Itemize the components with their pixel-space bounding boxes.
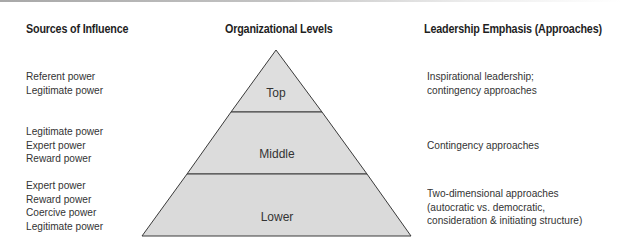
- tier-label-top: Top: [266, 86, 286, 100]
- emphasis-item: (autocratic vs. democratic,: [427, 201, 582, 215]
- emphasis-item: Inspirational leadership;: [427, 70, 537, 84]
- emphasis-item: Two-dimensional approaches: [427, 187, 582, 201]
- emphasis-middle-tier: Contingency approaches: [427, 139, 539, 153]
- emphasis-lower-tier: Two-dimensional approaches (autocratic v…: [427, 187, 582, 228]
- pyramid-tier-lower: [142, 174, 411, 236]
- tier-label-middle: Middle: [259, 147, 295, 161]
- source-item: Referent power: [26, 70, 103, 84]
- emphasis-item: consideration & initiating structure): [427, 214, 582, 228]
- source-item: Coercive power: [26, 206, 103, 220]
- tier-label-lower: Lower: [261, 210, 294, 224]
- source-item: Legitimate power: [26, 220, 103, 234]
- source-item: Expert power: [26, 139, 103, 153]
- emphasis-item: Contingency approaches: [427, 139, 539, 153]
- emphasis-item: contingency approaches: [427, 84, 537, 98]
- sources-top-tier: Referent power Legitimate power: [26, 70, 103, 97]
- sources-lower-tier: Expert power Reward power Coercive power…: [26, 179, 103, 233]
- emphasis-top-tier: Inspirational leadership; contingency ap…: [427, 70, 537, 97]
- pyramid-tier-top: [231, 50, 322, 112]
- source-item: Legitimate power: [26, 125, 103, 139]
- source-item: Reward power: [26, 152, 103, 166]
- source-item: Reward power: [26, 193, 103, 207]
- sources-middle-tier: Legitimate power Expert power Reward pow…: [26, 125, 103, 166]
- source-item: Legitimate power: [26, 84, 103, 98]
- pyramid-tier-middle: [187, 112, 367, 174]
- source-item: Expert power: [26, 179, 103, 193]
